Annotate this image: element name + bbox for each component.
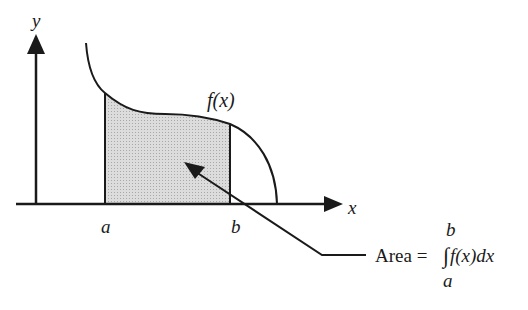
curve-label: f(x) [207, 89, 235, 112]
integral-lower-limit: a [443, 270, 453, 291]
area-text: Area = [375, 245, 427, 266]
y-axis-label: y [30, 10, 41, 31]
integral-area-diagram: y x f(x) a b b Area = ∫ f(x)dx a [0, 0, 528, 310]
integrand: f(x)dx [450, 245, 495, 267]
lower-bound-label: a [101, 216, 111, 237]
integral-upper-limit: b [446, 219, 456, 240]
upper-bound-label: b [231, 216, 241, 237]
x-axis-arrow-icon [324, 196, 343, 212]
y-axis-arrow-icon [27, 34, 45, 54]
x-axis-label: x [347, 197, 357, 218]
